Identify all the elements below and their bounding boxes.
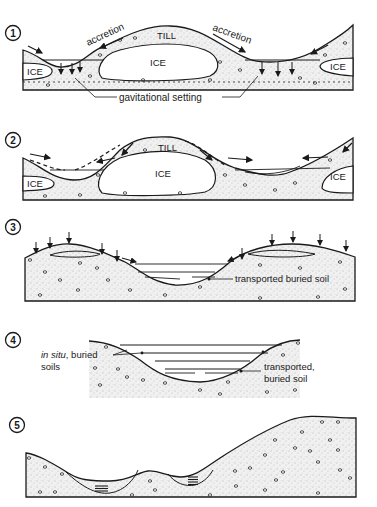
in-situ-buried-soils-label: in situ, buried xyxy=(41,349,98,360)
panel-5: 5 xyxy=(10,416,357,497)
accretion-arrow-far-left xyxy=(28,46,42,53)
panel-2: 2 TILL ICE ICE ICE xyxy=(6,133,354,201)
panel-number: 1 xyxy=(10,28,16,39)
panel-4: 4 in situ, buried soils transported, bur… xyxy=(6,333,315,399)
transported-buried-soil-label-line2: buried soil xyxy=(264,373,307,384)
panel-number: 4 xyxy=(10,335,16,346)
transported-buried-soil-label: transported buried soil xyxy=(235,273,329,284)
ice-label-center: ICE xyxy=(150,57,166,68)
panel-3: 3 transported buried soil xyxy=(6,220,356,302)
ice-label-right: ICE xyxy=(330,61,346,72)
panel-number: 3 xyxy=(10,222,16,233)
panel-1: 1 accretion accretion TILL xyxy=(6,21,354,103)
gravitational-setting-label: gavitational setting xyxy=(119,92,202,103)
in-situ-buried-soils-label-line2: soils xyxy=(41,361,60,372)
flow-arrow xyxy=(228,158,252,160)
ice-label-center: ICE xyxy=(155,168,171,179)
till-label: TILL xyxy=(157,30,176,41)
till-label: TILL xyxy=(158,142,177,153)
flow-arrow xyxy=(30,154,50,158)
ice-label-right: ICE xyxy=(330,171,346,182)
buried-text: , buried xyxy=(66,349,98,360)
glacial-landform-diagram: 1 accretion accretion TILL xyxy=(0,0,377,507)
in-situ-text: in situ xyxy=(41,349,67,360)
panel-number: 5 xyxy=(14,420,20,431)
ice-label-left: ICE xyxy=(27,178,43,189)
ice-label-left: ICE xyxy=(27,66,43,77)
transported-buried-soil-label: transported, xyxy=(264,361,315,372)
panel-number: 2 xyxy=(10,135,16,146)
